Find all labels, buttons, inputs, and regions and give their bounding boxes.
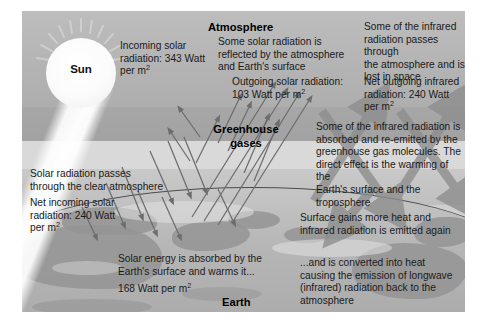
- earth-label: Earth: [222, 296, 251, 309]
- unit-superscript: 2: [187, 281, 191, 290]
- surface-gains-heat-text: Surface gains more heat and infrared rad…: [300, 212, 451, 237]
- outgoing-solar-text: Outgoing solar radiation: 103 Watt per m…: [232, 76, 343, 101]
- incoming-solar-text: Incoming solar radiation: 343 Watt per m…: [120, 40, 205, 78]
- atmosphere-label: Atmosphere: [208, 21, 273, 34]
- diagram-frame: Sun: [0, 0, 487, 323]
- absorbed-by-surface-text: Solar energy is absorbed by the Earth's …: [118, 253, 262, 278]
- unit-superscript: 2: [301, 86, 305, 95]
- net-outgoing-ir-text: Net outgoing infrared radiation: 240 Wat…: [364, 76, 465, 114]
- ir-passes-text: Some of the infrared radiation passes th…: [364, 21, 465, 84]
- greenhouse-gases-label: Greenhousegases: [206, 123, 286, 150]
- greenhouse-effect-illustration: Sun: [22, 11, 465, 312]
- absorbed-value-text: 168 Watt per m2: [118, 283, 191, 296]
- unit-superscript: 2: [56, 220, 60, 229]
- absorbed-reemitted-text: Some of the infrared radiation is absorb…: [316, 121, 465, 209]
- reflected-radiation-text: Some solar radiation is reflected by the…: [218, 36, 344, 74]
- unit-superscript: 2: [390, 99, 394, 108]
- converted-to-heat-text: ...and is converted into heat causing th…: [300, 257, 452, 307]
- passes-clear-atmosphere-text: Solar radiation passes through the clear…: [30, 168, 163, 193]
- net-incoming-solar-text: Net incoming solar radiation: 240 Watt p…: [30, 197, 115, 235]
- unit-superscript: 2: [146, 63, 150, 72]
